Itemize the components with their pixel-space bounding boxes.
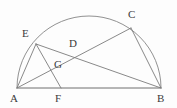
point-label-D: D (69, 38, 77, 49)
point-label-C: C (128, 9, 135, 20)
point-label-B: B (157, 93, 164, 104)
point-label-E: E (22, 28, 29, 39)
geometry-figure: A B C D E F G (0, 0, 177, 108)
point-label-F: F (55, 93, 61, 104)
figure-canvas (0, 0, 177, 108)
point-label-G: G (54, 59, 62, 70)
semicircle-arc (17, 16, 161, 88)
point-label-A: A (10, 93, 18, 104)
